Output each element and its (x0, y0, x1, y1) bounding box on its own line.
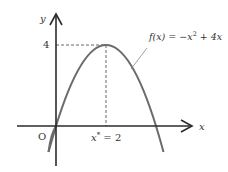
origin-label: O (38, 131, 46, 142)
y-axis-label: y (39, 13, 46, 24)
function-plot: y x 4 O x* = 2 f(x) = −x2 + 4x (0, 0, 228, 172)
x-axis-label: x (199, 121, 205, 132)
x-star-label: x* = 2 (91, 131, 121, 143)
label-leader-line (131, 48, 147, 69)
function-label: f(x) = −x2 + 4x (148, 30, 223, 42)
y-tick-4: 4 (43, 39, 49, 50)
